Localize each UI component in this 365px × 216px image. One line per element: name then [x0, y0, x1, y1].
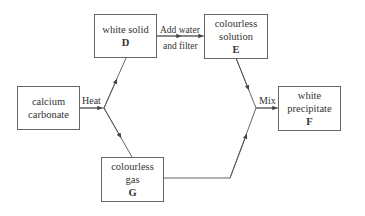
node-text: precipitate [287, 102, 331, 115]
node-text: colourless [111, 160, 154, 173]
edge-label-add-water: Add water [160, 24, 200, 36]
node-text: solution [219, 30, 253, 43]
node-colourless-gas-g: colourless gas G [101, 157, 164, 202]
edge-label-and-filter: and filter [163, 40, 198, 52]
edge-label-heat: Heat [82, 95, 101, 107]
node-white-precipitate-f: white precipitate F [278, 86, 341, 131]
node-white-solid-d: white solid D [94, 14, 157, 58]
node-text: carbonate [28, 108, 69, 121]
node-text: white [298, 89, 321, 102]
node-text: white solid [102, 23, 148, 36]
edge-label-mix: Mix [259, 95, 276, 107]
node-calcium-carbonate: calcium carbonate [17, 86, 80, 130]
node-letter: G [128, 186, 136, 199]
node-text: gas [126, 173, 140, 186]
node-colourless-solution-e: colourless solution E [204, 14, 268, 59]
node-text: colourless [215, 17, 258, 30]
node-text: calcium [32, 95, 65, 108]
node-letter: D [122, 36, 130, 49]
node-letter: F [306, 115, 312, 128]
node-letter: E [232, 43, 239, 56]
